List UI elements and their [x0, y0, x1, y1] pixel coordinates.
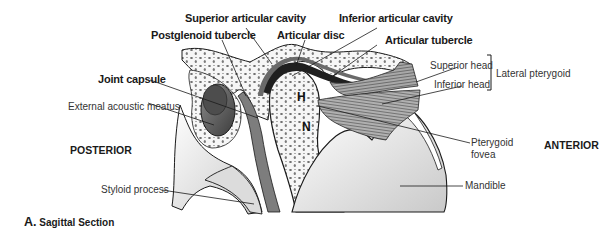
condyle-head-marker: H — [297, 91, 305, 103]
label-superior-head: Superior head — [430, 61, 493, 71]
label-articular-disc: Articular disc — [277, 30, 345, 41]
orientation-anterior: ANTERIOR — [544, 140, 599, 151]
label-inferior-articular-cavity: Inferior articular cavity — [339, 13, 453, 24]
label-styloid-process: Styloid process — [101, 185, 169, 195]
label-lateral-pterygoid: Lateral pterygoid — [496, 69, 571, 79]
label-pterygoid-fovea-line1: Pterygoid — [471, 138, 513, 148]
label-superior-articular-cavity: Superior articular cavity — [185, 13, 306, 24]
tmj-sagittal-diagram: H N Superior articular cavity Inferior a… — [0, 0, 615, 237]
condyle-neck-marker: N — [302, 121, 310, 133]
caption-letter: A. — [24, 215, 37, 229]
label-pterygoid-fovea-line2: fovea — [471, 150, 495, 160]
label-external-acoustic-meatus: External acoustic meatus — [68, 102, 180, 112]
orientation-posterior: POSTERIOR — [70, 145, 132, 156]
label-inferior-head: Inferior head — [434, 80, 490, 90]
label-postglenoid-tubercle: Postglenoid tubercle — [151, 30, 256, 41]
label-articular-tubercle: Articular tubercle — [385, 35, 472, 46]
label-joint-capsule: Joint capsule — [98, 74, 166, 85]
caption-text: Sagittal Section — [39, 217, 114, 228]
figure-caption: A. Sagittal Section — [24, 216, 114, 229]
label-mandible: Mandible — [465, 181, 506, 191]
